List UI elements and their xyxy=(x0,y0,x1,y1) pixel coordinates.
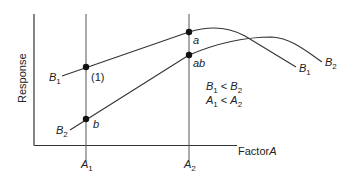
factorial-interaction-diagram: (1) a ab b B1 B2 B1 B2 B1 < B2 A1 < A2 A… xyxy=(0,0,352,178)
x-axis-label-var: A xyxy=(268,145,276,157)
point-ab-label: ab xyxy=(193,57,205,69)
b1-right-sub: 1 xyxy=(306,68,311,77)
cond-b-left: B xyxy=(206,80,213,92)
b2-left-sub: 2 xyxy=(63,130,68,139)
x-axis-label-prefix: Factor xyxy=(238,145,270,157)
cond-b-right: B xyxy=(230,80,237,92)
condition-b: B1 < B2 xyxy=(206,80,243,95)
point-1-label: (1) xyxy=(91,71,104,83)
b2-right-base: B xyxy=(325,56,332,68)
b2-left-base: B xyxy=(56,124,63,136)
a1-sub: 1 xyxy=(88,164,93,173)
cond-a-right-sub: 2 xyxy=(238,100,243,109)
condition-a: A1 < A2 xyxy=(205,94,243,109)
point-1 xyxy=(83,64,89,70)
b1-right-label: B1 xyxy=(299,62,311,77)
b2-right-sub: 2 xyxy=(332,62,337,71)
a2-level-label: A2 xyxy=(183,158,196,173)
cond-a-right: A xyxy=(229,94,237,106)
point-a xyxy=(186,29,192,35)
b1-left-label: B1 xyxy=(49,71,61,86)
b1-left-sub: 1 xyxy=(56,77,61,86)
point-b-label: b xyxy=(93,118,99,130)
b1-right-base: B xyxy=(299,62,306,74)
point-a-label: a xyxy=(193,34,199,46)
b2-curve xyxy=(70,37,322,130)
cond-b-right-sub: 2 xyxy=(238,86,243,95)
b1-left-base: B xyxy=(49,71,56,83)
b2-left-label: B2 xyxy=(56,124,68,139)
x-axis-label: FactorA xyxy=(238,145,277,157)
cond-b-op: < xyxy=(218,80,231,92)
cond-a-op: < xyxy=(218,94,231,106)
point-ab xyxy=(186,52,192,58)
b1-curve xyxy=(62,28,296,76)
b2-right-label: B2 xyxy=(325,56,337,71)
a2-sub: 2 xyxy=(191,164,196,173)
y-axis-label: Response xyxy=(16,53,28,103)
point-b xyxy=(83,116,89,122)
a1-level-label: A1 xyxy=(80,158,93,173)
a2-base: A xyxy=(183,158,191,170)
cond-a-left: A xyxy=(205,94,213,106)
a1-base: A xyxy=(80,158,88,170)
